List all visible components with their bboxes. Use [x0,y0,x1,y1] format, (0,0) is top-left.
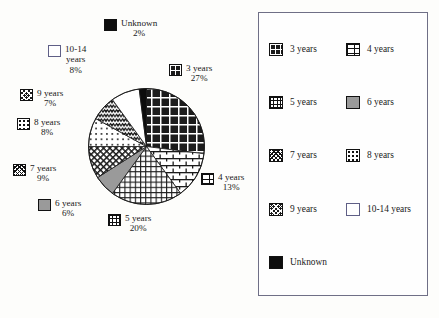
callout-text: 10-14 years 8% [65,44,86,75]
pattern-swatch-icon [346,96,360,109]
pie-chart-figure: Unknown 2% 10-14 years 8% 9 years 7% 8 y… [0,0,439,318]
callout-text: 8 years 8% [34,117,60,138]
legend-item-8-years[interactable]: 8 years [344,129,421,182]
callout-9-years: 9 years 7% [20,88,63,109]
callout-7-years: 7 years 9% [13,163,56,184]
legend-item-5-years[interactable]: 5 years [267,76,344,129]
legend-item-6-years[interactable]: 6 years [344,76,421,129]
callout-6-years: 6 years 6% [38,198,81,219]
pattern-swatch-icon [104,19,117,31]
callout-text: 9 years 7% [37,88,63,109]
pattern-swatch-icon [201,173,214,185]
callout-text: 5 years 20% [125,213,151,234]
pie-chart [88,88,205,205]
callout-text: 7 years 9% [30,163,56,184]
pattern-swatch-icon [269,149,283,162]
pattern-swatch-icon [169,64,182,76]
pattern-swatch-icon [269,203,283,216]
callout-4-years: 4 years 13% [201,172,244,193]
legend-item-3-years[interactable]: 3 years [267,23,344,76]
legend-item-label: 3 years [290,44,317,55]
legend-item-9-years[interactable]: 9 years [267,183,344,236]
legend-item-label: 7 years [290,150,317,161]
pattern-swatch-icon [20,89,33,101]
pattern-swatch-icon [346,203,360,216]
legend-item-10-14-years[interactable]: 10-14 years [344,183,421,236]
pattern-swatch-icon [346,149,360,162]
callout-text: 3 years 27% [186,63,212,84]
callout-5-years: 5 years 20% [108,213,151,234]
legend-item-label: 4 years [367,44,394,55]
legend-item-label: 8 years [367,150,394,161]
callout-text: 6 years 6% [55,198,81,219]
legend-item-label: 5 years [290,97,317,108]
callout-text: 4 years 13% [218,172,244,193]
callout-8-years: 8 years 8% [17,117,60,138]
legend-item-label: Unknown [290,257,327,268]
pattern-swatch-icon [48,45,61,57]
legend-grid: 3 years 4 years 5 years 6 years 7 years … [267,23,421,289]
pattern-swatch-icon [108,214,121,226]
pattern-swatch-icon [269,43,283,56]
callout-unknown: Unknown 2% [104,18,157,39]
legend-item-7-years[interactable]: 7 years [267,129,344,182]
callout-3-years: 3 years 27% [169,63,212,84]
legend-item-label: 9 years [290,204,317,215]
pie-slice-3-years[interactable] [147,89,205,154]
legend-item-unknown[interactable]: Unknown [267,236,344,289]
pattern-swatch-icon [346,43,360,56]
legend-item-label: 6 years [367,97,394,108]
legend-item-4-years[interactable]: 4 years [344,23,421,76]
pattern-swatch-icon [17,118,30,130]
pattern-swatch-icon [269,96,283,109]
pattern-swatch-icon [38,199,51,211]
callout-10-14-years: 10-14 years 8% [48,44,86,75]
callout-text: Unknown 2% [121,18,157,39]
pattern-swatch-icon [269,256,283,269]
pattern-swatch-icon [13,164,26,176]
legend-box: 3 years 4 years 5 years 6 years 7 years … [258,12,428,296]
legend-item-label: 10-14 years [367,204,411,215]
pie-svg [88,88,205,205]
pie-slices [89,89,205,205]
